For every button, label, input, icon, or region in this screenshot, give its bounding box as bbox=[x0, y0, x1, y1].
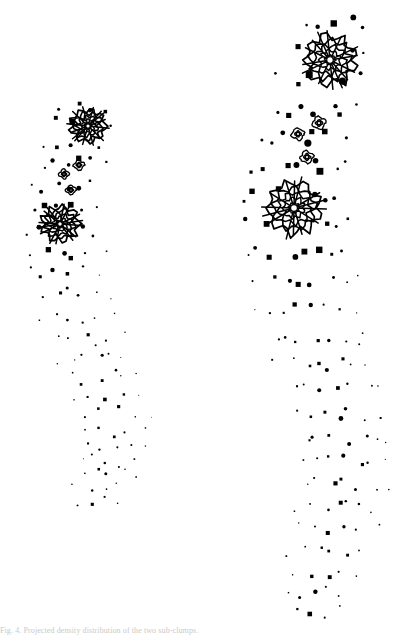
data-point bbox=[380, 417, 382, 419]
data-point bbox=[327, 339, 330, 342]
figure-caption-text: Fig. 4. Projected density distribution o… bbox=[0, 627, 405, 635]
data-point bbox=[105, 340, 107, 342]
data-point bbox=[307, 612, 312, 617]
data-point bbox=[337, 112, 341, 116]
data-point bbox=[309, 303, 313, 307]
data-point bbox=[26, 234, 28, 236]
data-point bbox=[84, 416, 86, 418]
data-point bbox=[82, 265, 84, 267]
data-point bbox=[104, 110, 108, 114]
data-point bbox=[378, 524, 380, 526]
data-point bbox=[316, 247, 322, 253]
data-point bbox=[293, 357, 295, 359]
data-point bbox=[104, 462, 107, 465]
peak-core bbox=[70, 189, 73, 192]
data-point bbox=[42, 296, 44, 298]
data-point bbox=[254, 309, 255, 310]
data-point bbox=[355, 529, 357, 531]
data-point bbox=[115, 482, 117, 484]
data-point bbox=[151, 417, 152, 418]
data-point bbox=[292, 574, 294, 576]
data-point bbox=[243, 200, 246, 203]
data-point bbox=[298, 596, 301, 599]
data-point bbox=[345, 500, 347, 502]
data-point bbox=[273, 275, 276, 278]
data-point bbox=[46, 247, 51, 252]
peak-core bbox=[296, 132, 300, 136]
data-point bbox=[286, 163, 291, 168]
data-point bbox=[87, 333, 90, 336]
data-point bbox=[358, 550, 360, 552]
data-point bbox=[296, 410, 298, 412]
data-point bbox=[339, 416, 344, 421]
data-point bbox=[261, 167, 265, 171]
data-point bbox=[296, 608, 298, 610]
data-point bbox=[55, 145, 59, 149]
data-point bbox=[323, 304, 325, 306]
data-point bbox=[67, 337, 69, 339]
data-point bbox=[278, 338, 280, 340]
data-point bbox=[330, 253, 333, 256]
data-point bbox=[366, 462, 368, 464]
data-point bbox=[342, 525, 345, 528]
data-point bbox=[77, 504, 79, 506]
data-point bbox=[97, 427, 99, 429]
data-point bbox=[57, 363, 59, 365]
data-point bbox=[252, 280, 254, 282]
data-point bbox=[350, 364, 352, 366]
data-point bbox=[276, 111, 279, 114]
data-point bbox=[371, 385, 373, 387]
data-point bbox=[344, 160, 347, 163]
peak-core bbox=[305, 155, 309, 159]
data-point bbox=[91, 503, 94, 506]
data-point bbox=[82, 322, 84, 324]
data-point bbox=[57, 182, 61, 186]
data-point bbox=[59, 291, 62, 294]
data-point bbox=[303, 459, 305, 461]
data-point bbox=[269, 312, 271, 314]
data-point bbox=[339, 478, 342, 481]
data-point bbox=[39, 320, 40, 321]
data-point bbox=[336, 386, 340, 390]
data-point bbox=[388, 489, 390, 491]
data-point bbox=[377, 438, 379, 440]
data-point bbox=[346, 281, 348, 283]
data-point bbox=[72, 372, 74, 374]
data-point bbox=[124, 331, 126, 333]
data-point bbox=[285, 555, 287, 557]
data-point bbox=[260, 138, 263, 141]
data-point bbox=[325, 586, 327, 588]
data-point bbox=[364, 364, 365, 365]
data-point bbox=[327, 509, 330, 512]
data-point bbox=[323, 411, 326, 414]
data-point bbox=[314, 526, 316, 528]
data-point bbox=[356, 312, 357, 313]
data-point bbox=[106, 488, 108, 490]
data-point bbox=[298, 522, 299, 523]
data-point bbox=[89, 180, 91, 182]
data-point bbox=[66, 286, 69, 289]
data-point bbox=[123, 431, 125, 433]
data-point bbox=[344, 407, 348, 411]
figure-caption-clipped: Fig. 4. Projected density distribution o… bbox=[0, 627, 405, 636]
data-point bbox=[307, 483, 309, 485]
data-point bbox=[310, 111, 316, 117]
data-point bbox=[71, 483, 73, 485]
data-point bbox=[69, 143, 73, 147]
data-point bbox=[105, 161, 107, 163]
data-point bbox=[332, 196, 336, 200]
data-point bbox=[109, 125, 112, 128]
data-point bbox=[385, 459, 386, 460]
data-point bbox=[117, 503, 118, 504]
data-point bbox=[292, 254, 298, 260]
data-point bbox=[135, 373, 136, 374]
data-point bbox=[294, 341, 296, 343]
data-point bbox=[284, 336, 287, 339]
data-point bbox=[54, 116, 58, 120]
data-point bbox=[359, 71, 363, 75]
data-point bbox=[91, 454, 93, 456]
data-point bbox=[304, 139, 311, 146]
data-point bbox=[42, 146, 44, 148]
data-point bbox=[346, 554, 349, 557]
data-point bbox=[354, 488, 357, 491]
